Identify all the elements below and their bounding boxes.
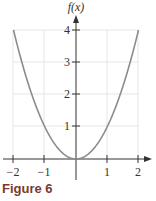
xtick-label: 1: [104, 165, 110, 179]
ytick-label: 3: [64, 55, 70, 69]
xtick-label: −2: [7, 165, 20, 179]
xtick-label: −1: [38, 165, 51, 179]
plot-area: −2 −1 1 2 1 2 3 4 f(x): [0, 0, 156, 201]
ytick-label: 1: [64, 119, 70, 133]
x-axis-arrow-icon: [144, 156, 152, 162]
ytick-label: 4: [64, 23, 70, 37]
y-axis-label: f(x): [68, 0, 85, 14]
y-axis-arrow-icon: [73, 15, 79, 23]
xtick-label: 2: [135, 165, 141, 179]
y-axis: [72, 15, 80, 180]
figure-caption: Figure 6: [2, 181, 53, 196]
ytick-label: 2: [64, 87, 70, 101]
